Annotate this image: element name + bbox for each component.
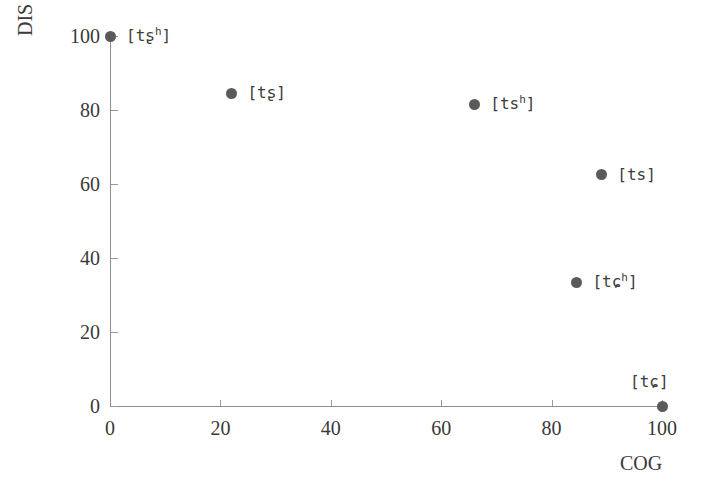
data-point-label: [tɕ] — [630, 374, 669, 390]
y-tick-label-wrap: 80 — [52, 100, 100, 120]
data-point-label: [ts] — [617, 167, 656, 183]
x-tick-label: 20 — [190, 418, 250, 438]
data-point-label: [tʂh] — [126, 28, 171, 44]
x-tick-label: 60 — [411, 418, 471, 438]
x-tick-mark — [441, 400, 442, 406]
y-axis-line — [110, 36, 111, 407]
x-axis-title: COG — [620, 452, 662, 475]
data-point-label: [tsh] — [490, 96, 535, 112]
y-tick-mark — [111, 110, 118, 111]
y-axis-title: DIS — [14, 4, 37, 36]
data-point-label: [tʂ] — [247, 85, 286, 101]
y-tick-label-wrap: 0 — [52, 396, 100, 416]
x-tick-label: 80 — [522, 418, 582, 438]
data-point[interactable] — [657, 401, 668, 412]
y-tick-label: 40 — [58, 248, 100, 268]
y-tick-label-wrap: 100 — [52, 26, 100, 46]
x-tick-mark — [552, 400, 553, 406]
data-point[interactable] — [226, 88, 237, 99]
y-tick-label: 100 — [58, 26, 100, 46]
y-tick-label-wrap: 60 — [52, 174, 100, 194]
y-tick-label-wrap: 20 — [52, 322, 100, 342]
x-tick-label: 40 — [301, 418, 361, 438]
data-point[interactable] — [469, 99, 480, 110]
y-tick-mark — [111, 258, 118, 259]
data-point-label: [tɕh] — [592, 274, 637, 290]
y-tick-mark — [111, 184, 118, 185]
y-tick-label-wrap: 40 — [52, 248, 100, 268]
y-tick-mark — [111, 406, 118, 407]
scatter-chart: DIS 020406080100 020406080100 [tʂh][tʂ][… — [0, 0, 721, 499]
x-tick-mark — [220, 400, 221, 406]
data-point[interactable] — [571, 277, 582, 288]
x-axis-line — [110, 406, 663, 407]
x-tick-label: 100 — [632, 418, 692, 438]
x-tick-mark — [331, 400, 332, 406]
y-tick-label: 20 — [58, 322, 100, 342]
data-point[interactable] — [105, 31, 116, 42]
y-tick-label: 80 — [58, 100, 100, 120]
x-tick-label: 0 — [80, 418, 140, 438]
y-tick-label: 0 — [58, 396, 100, 416]
y-tick-mark — [111, 332, 118, 333]
data-point[interactable] — [596, 169, 607, 180]
y-tick-label: 60 — [58, 174, 100, 194]
